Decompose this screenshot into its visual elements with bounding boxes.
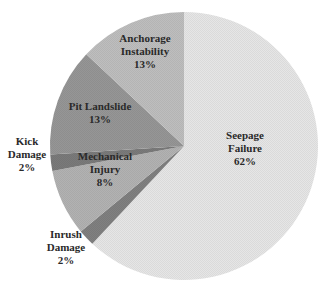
label-line: 62%: [234, 155, 256, 167]
pie-chart: SeepageFailure62%InrushDamage2%Mechanica…: [0, 0, 322, 293]
label-line: Inrush: [50, 228, 82, 240]
label-line: 13%: [89, 113, 111, 125]
label-line: 2%: [19, 161, 36, 173]
label-line: 2%: [58, 254, 75, 266]
label-line: Failure: [228, 142, 262, 154]
label-line: Damage: [8, 148, 47, 160]
label-line: Kick: [16, 135, 39, 147]
label-line: Injury: [90, 163, 121, 175]
label-line: Pit Landslide: [69, 100, 132, 112]
label-line: 8%: [97, 176, 114, 188]
label-line: Mechanical: [78, 150, 132, 162]
pie-slices: [50, 12, 318, 280]
label-kick-damage: KickDamage2%: [8, 135, 47, 173]
label-line: Instability: [121, 45, 170, 57]
label-inrush-damage: InrushDamage2%: [47, 228, 86, 266]
label-line: Damage: [47, 241, 86, 253]
label-line: Seepage: [226, 129, 264, 141]
label-line: 13%: [134, 58, 156, 70]
label-line: Anchorage: [119, 32, 170, 44]
